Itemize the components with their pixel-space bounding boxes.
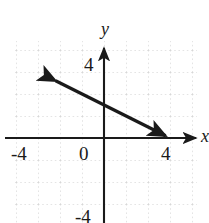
origin-label: 0 — [79, 144, 89, 163]
y-axis-name: y — [101, 20, 109, 38]
x-tick-label-pos4: 4 — [161, 144, 171, 163]
x-axis-name: x — [201, 127, 209, 145]
graph-figure: -4 0 4 4 -4 y x — [0, 0, 209, 223]
y-tick-label-neg4: -4 — [75, 207, 91, 223]
x-tick-label-neg4: -4 — [11, 144, 27, 163]
y-tick-label-pos4: 4 — [84, 55, 94, 74]
